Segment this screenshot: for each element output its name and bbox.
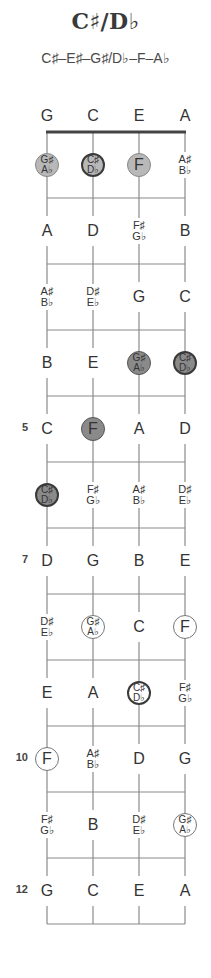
note-label: E (78, 348, 108, 378)
note-label: A♯B♭ (32, 284, 62, 310)
note-name: A (88, 684, 99, 702)
note-label: D (170, 414, 200, 444)
note-label: C (78, 876, 108, 906)
note-label: G (32, 876, 62, 906)
note-name: A♭ (87, 627, 99, 637)
note-name: F (180, 618, 190, 636)
note-label: A♯B♭ (124, 482, 154, 508)
chord-tone-marker: G♯A♭ (173, 813, 197, 837)
note-label: C (124, 612, 154, 642)
note-name: E♭ (133, 825, 145, 836)
note-label: G (124, 282, 154, 312)
note-name: D♭ (41, 495, 53, 505)
note-name: G♭ (178, 693, 192, 704)
note-name: E♭ (179, 495, 191, 506)
note-label: D (78, 216, 108, 246)
note-name: D (133, 750, 145, 768)
note-label: C (32, 414, 62, 444)
note-name: B (134, 552, 145, 570)
note-label: D (124, 744, 154, 774)
note-name: F (134, 156, 144, 174)
note-name: B (42, 354, 53, 372)
note-name: G♭ (40, 825, 54, 836)
note-name: D♭ (133, 693, 145, 703)
fret-number: 10 (10, 751, 28, 763)
fret-number: 12 (10, 883, 28, 895)
chord-tone-marker: C♯D♭ (35, 483, 59, 507)
note-name: G♭ (132, 231, 146, 242)
note-label: E (32, 678, 62, 708)
chord-tone-marker: F (35, 747, 59, 771)
note-name: C (87, 882, 99, 900)
note-label: A♯B♭ (170, 152, 200, 178)
note-name: D (41, 552, 53, 570)
note-name: D♭ (87, 165, 99, 175)
note-label: A (78, 678, 108, 708)
note-label: B (170, 216, 200, 246)
note-name: G (87, 552, 99, 570)
note-label: B (124, 546, 154, 576)
note-name: E (42, 684, 53, 702)
note-label: D (32, 546, 62, 576)
note-label: G (170, 744, 200, 774)
note-label: D♯E♭ (78, 284, 108, 310)
note-name: B♭ (133, 495, 145, 506)
note-name: A (180, 882, 191, 900)
note-label: A♯B♭ (78, 746, 108, 772)
fret-number: 7 (10, 553, 28, 565)
note-label: D♯E♭ (124, 812, 154, 838)
note-label: B (32, 348, 62, 378)
fret-number: 5 (10, 421, 28, 433)
note-label: F♯G♭ (32, 812, 62, 838)
note-label: E (170, 546, 200, 576)
note-name: G (133, 288, 145, 306)
note-label: B (78, 810, 108, 840)
note-name: B♭ (41, 297, 53, 308)
note-name: E (134, 882, 145, 900)
note-label: F♯G♭ (78, 482, 108, 508)
note-name: F (42, 750, 52, 768)
note-label: D♯E♭ (32, 614, 62, 640)
note-name: B♭ (179, 165, 191, 176)
note-name: B♭ (87, 759, 99, 770)
note-name: C (133, 618, 145, 636)
chord-tone-marker: C♯D♭ (127, 681, 151, 705)
note-label: G (78, 546, 108, 576)
note-label: C (170, 282, 200, 312)
note-label: F♯G♭ (170, 680, 200, 706)
note-name: A (42, 222, 53, 240)
note-name: D♭ (179, 363, 191, 373)
chord-tone-marker: G♯A♭ (35, 153, 59, 177)
note-name: F (88, 420, 98, 438)
note-name: A♭ (41, 165, 53, 175)
note-name: E (180, 552, 191, 570)
note-name: E (88, 354, 99, 372)
chord-tone-marker: G♯A♭ (127, 351, 151, 375)
note-name: A (134, 420, 145, 438)
note-label: A (170, 876, 200, 906)
chord-tone-marker: F (173, 615, 197, 639)
note-label: A (32, 216, 62, 246)
chord-tone-marker: C♯D♭ (81, 153, 105, 177)
note-label: F♯G♭ (124, 218, 154, 244)
note-name: C (179, 288, 191, 306)
note-name: G♭ (86, 495, 100, 506)
note-name: D (87, 222, 99, 240)
note-name: E♭ (41, 627, 53, 638)
note-label: A (124, 414, 154, 444)
note-label: E (124, 876, 154, 906)
note-name: A♭ (133, 363, 145, 373)
note-name: B (88, 816, 99, 834)
note-name: A♭ (179, 825, 191, 835)
chord-tone-marker: C♯D♭ (173, 351, 197, 375)
chord-tone-marker: G♯A♭ (81, 615, 105, 639)
note-name: B (180, 222, 191, 240)
note-name: D (179, 420, 191, 438)
chord-tone-marker: F (81, 417, 105, 441)
note-label: D♯E♭ (170, 482, 200, 508)
note-name: G (41, 882, 53, 900)
chord-tone-marker: F (127, 153, 151, 177)
note-name: C (41, 420, 53, 438)
note-name: G (179, 750, 191, 768)
note-name: E♭ (87, 297, 99, 308)
